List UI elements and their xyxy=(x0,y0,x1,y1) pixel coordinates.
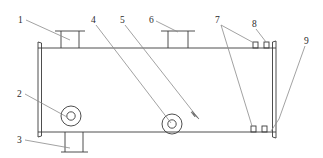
callout-label-9: 9 xyxy=(304,36,309,46)
leader-arrowhead xyxy=(191,111,199,119)
leader-line-8 xyxy=(256,29,266,42)
fitting-bottom-a xyxy=(251,126,256,132)
top-nozzle-left xyxy=(55,31,85,48)
callout-label-2: 2 xyxy=(17,89,22,99)
callout-label-4: 4 xyxy=(91,15,96,25)
fitting-top-b xyxy=(264,42,269,48)
leader-line-6 xyxy=(156,21,178,32)
manway-flange-left-outer-circle xyxy=(61,106,81,126)
manway-flange-center-outer-circle xyxy=(162,114,182,134)
manway-flange-center xyxy=(162,114,182,134)
callout-label-1: 1 xyxy=(18,15,23,25)
top-nozzle-right xyxy=(161,31,195,48)
right-flange-bottom-cap xyxy=(273,137,277,138)
leader-line-1 xyxy=(26,20,70,40)
callout-label-7: 7 xyxy=(215,15,220,25)
leader-line-3 xyxy=(25,140,70,148)
left-flange-bottom-cap xyxy=(38,136,42,137)
small-fittings-group xyxy=(251,42,269,132)
left-head-flange xyxy=(38,42,42,137)
leader-line-2 xyxy=(25,94,67,117)
manway-flange-left-inner-circle xyxy=(67,112,75,120)
fitting-bottom-b xyxy=(262,126,267,132)
leader-line-4 xyxy=(96,25,171,123)
right-flange-top-cap xyxy=(273,41,277,42)
leader-lines-group xyxy=(25,20,305,148)
leader-line-5 xyxy=(125,25,198,118)
bottom-nozzle-drain xyxy=(61,132,88,152)
diagram-canvas: 1 2 3 4 5 6 7 8 9 xyxy=(0,0,323,158)
right-head-flange xyxy=(273,41,277,138)
leader-line-7b xyxy=(221,25,252,126)
callout-label-5: 5 xyxy=(120,15,125,25)
leader-line-9 xyxy=(279,46,305,119)
callout-label-8: 8 xyxy=(252,19,257,29)
vessel-line-drawing: 1 2 3 4 5 6 7 8 9 xyxy=(0,0,323,158)
manway-flange-left xyxy=(61,106,81,126)
callout-label-3: 3 xyxy=(17,135,22,145)
left-flange-top-cap xyxy=(38,42,42,43)
callout-label-6: 6 xyxy=(149,15,154,25)
